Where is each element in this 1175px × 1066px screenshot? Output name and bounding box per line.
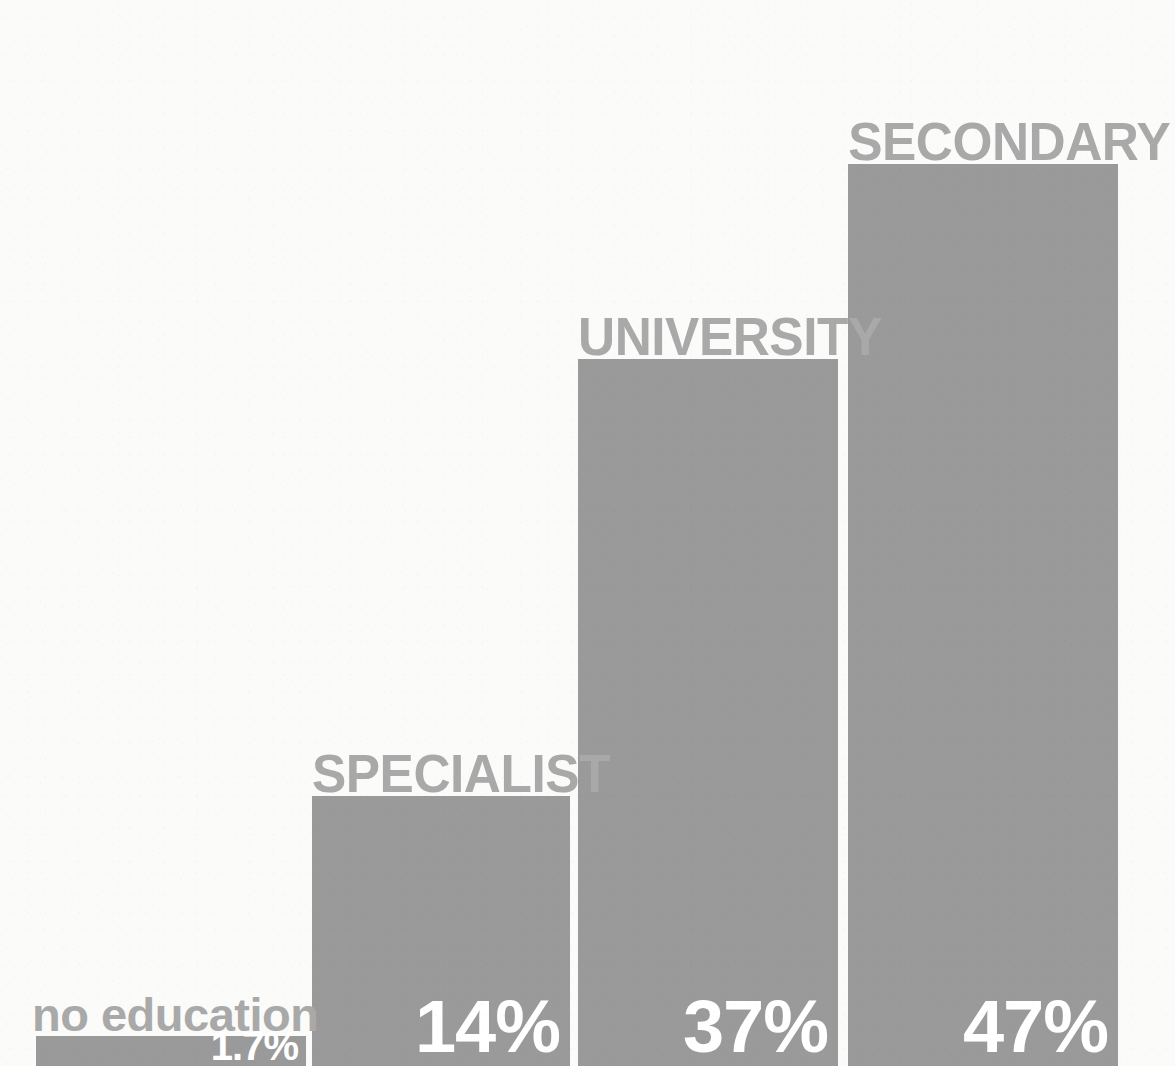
bar-chart: no education 1.7% SPECIALIST 14% UNIVERS…: [0, 0, 1175, 1066]
bar-value-label-secondary: 47%: [963, 990, 1108, 1064]
bar-value-label-no-education: 1.7%: [211, 1026, 298, 1066]
bar-category-label-specialist: SPECIALIST: [312, 750, 570, 798]
bar-group-university: UNIVERSITY 37%: [578, 69, 838, 1066]
bar-group-specialist: SPECIALIST 14%: [312, 69, 570, 1066]
plot-area: no education 1.7% SPECIALIST 14% UNIVERS…: [0, 0, 1175, 1066]
bar-secondary: [848, 164, 1118, 1066]
bar-group-secondary: SECONDARY 47%: [848, 69, 1118, 1066]
bar-university: [578, 359, 838, 1066]
bar-value-label-university: 37%: [683, 990, 828, 1064]
bar-value-label-specialist: 14%: [415, 990, 560, 1064]
bar-category-label-secondary: SECONDARY: [848, 118, 1118, 166]
bar-group-no-education: no education 1.7%: [36, 69, 306, 1066]
bar-category-label-university: UNIVERSITY: [578, 313, 838, 361]
